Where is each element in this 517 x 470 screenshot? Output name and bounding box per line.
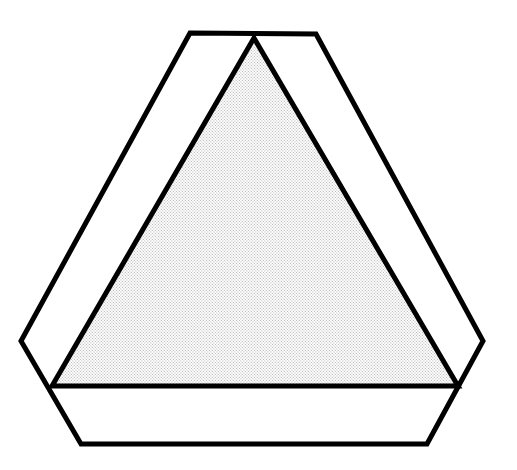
triangular-sign-figure	[0, 0, 517, 470]
